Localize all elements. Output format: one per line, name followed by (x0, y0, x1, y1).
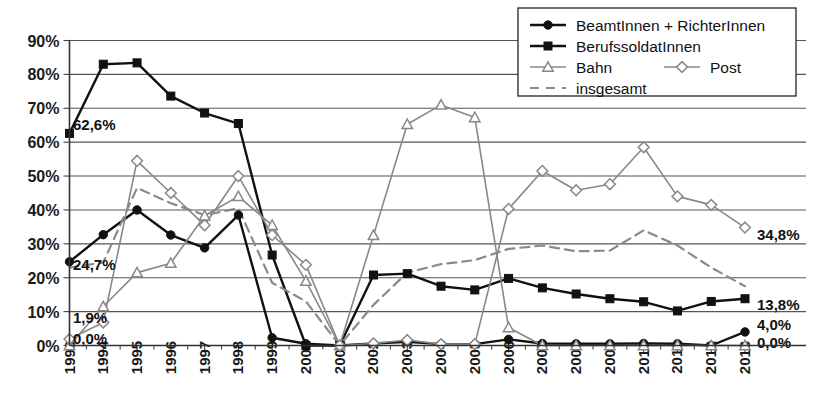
data-point-marker (402, 119, 412, 128)
data-point-marker (640, 298, 648, 306)
series-line (70, 147, 746, 345)
data-point-marker (233, 191, 243, 200)
chart-container: 0%10%20%30%40%50%60%70%80%90% 1993199419… (0, 0, 820, 410)
y-axis-tick-label: 70% (27, 100, 59, 117)
y-axis-labels-group: 0%10%20%30%40%50%60%70%80%90% (27, 33, 59, 355)
y-axis-tick-label: 0% (36, 338, 59, 355)
data-point-marker (268, 251, 276, 259)
data-point-marker (99, 60, 107, 68)
y-axis-tick-label: 30% (27, 236, 59, 253)
data-point-marker (707, 297, 715, 305)
data-point-marker (234, 120, 242, 128)
data-point-marker (234, 211, 242, 219)
y-axis-tick-label: 20% (27, 270, 59, 287)
data-point-marker (503, 322, 513, 331)
data-point-marker (437, 282, 445, 290)
value-annotation: 4,0% (757, 316, 791, 333)
line-chart-plot: 0%10%20%30%40%50%60%70%80%90% 1993199419… (0, 0, 820, 410)
data-point-marker (471, 286, 479, 294)
data-point-marker (505, 274, 513, 282)
data-point-marker (403, 270, 411, 278)
data-point-marker (504, 335, 512, 343)
y-axis-tick-label: 40% (27, 202, 59, 219)
legend-marker-filled-circle-icon (544, 21, 552, 29)
y-axis-tick-label: 60% (27, 134, 59, 151)
y-axis-tick-label: 90% (27, 33, 59, 50)
y-axis-tick-label: 50% (27, 168, 59, 185)
data-point-marker (268, 334, 276, 342)
data-point-marker (741, 295, 749, 303)
data-point-marker (436, 100, 446, 109)
data-point-marker (167, 92, 175, 100)
data-point-marker (741, 328, 749, 336)
value-annotation: 62,6% (73, 116, 116, 133)
y-tick-marks-group (64, 41, 70, 346)
data-point-marker (233, 171, 244, 182)
data-point-marker (167, 231, 175, 239)
legend-entry-label[interactable]: BerufssoldatInnen (576, 38, 701, 55)
data-point-marker (740, 222, 751, 233)
y-axis-tick-label: 80% (27, 66, 59, 83)
data-point-marker (201, 109, 209, 117)
data-point-marker (571, 185, 582, 196)
value-annotation: 34,8% (757, 226, 800, 243)
data-point-marker (673, 307, 681, 315)
data-point-marker (200, 244, 208, 252)
data-point-marker (572, 290, 580, 298)
data-point-marker (672, 191, 683, 202)
y-axis-tick-label: 10% (27, 304, 59, 321)
data-point-marker (133, 59, 141, 67)
data-point-marker (606, 295, 614, 303)
value-annotation: 24,7% (73, 256, 116, 273)
legend-entry-label[interactable]: insgesamt (576, 80, 647, 97)
data-point-marker (133, 206, 141, 214)
value-annotation: 13,8% (757, 296, 800, 313)
legend-entry-label[interactable]: Post (710, 59, 742, 76)
legend-entry-label[interactable]: BeamtInnen + RichterInnen (576, 17, 765, 34)
data-point-marker (199, 211, 209, 220)
data-point-marker (369, 271, 377, 279)
legend[interactable]: BeamtInnen + RichterInnenBerufssoldatInn… (518, 8, 796, 97)
data-point-marker (538, 284, 546, 292)
legend-marker-filled-square-icon (544, 42, 552, 50)
legend-entry-label[interactable]: Bahn (576, 59, 612, 76)
value-annotation: 0,0% (73, 330, 107, 347)
data-markers-group (64, 59, 750, 351)
data-point-marker (99, 230, 107, 238)
data-point-marker (706, 199, 717, 210)
value-annotation: 1,9% (73, 309, 107, 326)
value-annotation: 0,0% (757, 334, 791, 351)
data-point-marker (368, 230, 378, 239)
value-annotations-group: 62,6%24,7%1,9%0,0%34,8%13,8%4,0%0,0% (73, 116, 800, 351)
